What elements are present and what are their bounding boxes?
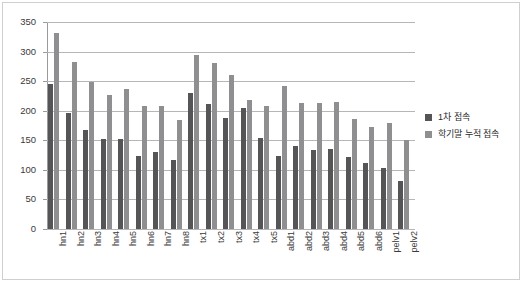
bar — [264, 106, 269, 229]
x-tick-label-hn4: hn4 — [112, 231, 121, 277]
bar — [54, 33, 59, 229]
bar-group — [82, 22, 100, 229]
bar-group — [152, 22, 170, 229]
bar — [241, 108, 246, 229]
x-tick-label-hn1: hn1 — [59, 231, 68, 277]
bar — [142, 106, 147, 229]
bar — [258, 138, 263, 229]
bar-group — [240, 22, 258, 229]
bar-group — [362, 22, 380, 229]
bar-group — [397, 22, 415, 229]
y-tick-label-250: 250 — [0, 76, 41, 86]
bar — [334, 102, 339, 229]
bar — [177, 120, 182, 229]
bar-group — [135, 22, 153, 229]
bar — [404, 140, 409, 229]
bar — [293, 146, 298, 229]
y-tick-mark-350 — [43, 22, 47, 23]
legend-swatch-series-1-icon — [425, 114, 432, 121]
bar — [153, 152, 158, 229]
bar — [352, 119, 357, 229]
bar — [72, 62, 77, 229]
legend-swatch-series-2-icon — [425, 131, 432, 138]
y-tick-mark-150 — [43, 140, 47, 141]
gridline-0 — [47, 229, 415, 230]
bar-group — [47, 22, 65, 229]
bar — [212, 63, 217, 229]
bar — [124, 89, 129, 229]
chart-container: 050100150200250300350 hn1hn2hn3hn4hn5hn6… — [0, 0, 523, 283]
bar — [89, 82, 94, 229]
x-tick-label-abd5: abd5 — [357, 231, 366, 277]
legend-item-series-2: 학기말 누적 접속 — [425, 129, 520, 140]
bar-group — [222, 22, 240, 229]
bar — [194, 55, 199, 229]
y-tick-mark-50 — [43, 199, 47, 200]
y-tick-label-200: 200 — [0, 106, 41, 116]
x-tick-label-tx1: tx1 — [199, 231, 208, 277]
x-tick-label-abd6: abd6 — [375, 231, 384, 277]
x-tick-label-pelv1: pelv1 — [392, 231, 401, 277]
bar — [171, 160, 176, 229]
bar — [311, 150, 316, 229]
x-tick-label-hn5: hn5 — [129, 231, 138, 277]
bar — [66, 113, 71, 230]
x-tick-label-abd4: abd4 — [340, 231, 349, 277]
bar-group — [292, 22, 310, 229]
bar-group — [187, 22, 205, 229]
bar-group — [327, 22, 345, 229]
x-tick-label-hn7: hn7 — [164, 231, 173, 277]
y-tick-mark-250 — [43, 81, 47, 82]
bar — [83, 130, 88, 229]
bar — [369, 127, 374, 229]
bar-group — [65, 22, 83, 229]
y-tick-mark-300 — [43, 52, 47, 53]
bar-group — [100, 22, 118, 229]
x-tick-label-tx5: tx5 — [270, 231, 279, 277]
bar — [48, 84, 53, 229]
y-tick-mark-100 — [43, 170, 47, 171]
y-tick-label-350: 350 — [0, 17, 41, 27]
bar — [387, 123, 392, 229]
bar-group — [275, 22, 293, 229]
y-tick-label-50: 50 — [0, 194, 41, 204]
x-tick-label-hn6: hn6 — [147, 231, 156, 277]
bar — [398, 181, 403, 229]
bar — [159, 106, 164, 229]
x-tick-label-hn8: hn8 — [182, 231, 191, 277]
bar-group — [170, 22, 188, 229]
bar-group — [257, 22, 275, 229]
x-tick-label-abd2: abd2 — [305, 231, 314, 277]
plot-area — [47, 22, 415, 229]
bar-group — [310, 22, 328, 229]
bar — [317, 103, 322, 229]
y-tick-mark-0 — [43, 229, 47, 230]
bar — [247, 100, 252, 229]
bar — [282, 86, 287, 229]
bar — [381, 168, 386, 229]
y-tick-mark-200 — [43, 111, 47, 112]
x-tick-label-abd1: abd1 — [287, 231, 296, 277]
bar — [206, 104, 211, 229]
y-tick-label-300: 300 — [0, 47, 41, 57]
bar-group — [380, 22, 398, 229]
x-tick-label-tx4: tx4 — [252, 231, 261, 277]
x-tick-label-tx3: tx3 — [235, 231, 244, 277]
x-tick-label-pelv2: pelv2 — [410, 231, 419, 277]
legend-label-series-1: 1차 접속 — [438, 112, 470, 123]
bar — [118, 139, 123, 229]
x-tick-label-hn3: hn3 — [94, 231, 103, 277]
legend-label-series-2: 학기말 누적 접속 — [438, 129, 499, 140]
bar — [229, 75, 234, 229]
bar — [328, 149, 333, 229]
bar — [363, 163, 368, 229]
bar — [223, 118, 228, 229]
chart-legend: 1차 접속 학기말 누적 접속 — [425, 112, 520, 146]
y-tick-label-150: 150 — [0, 135, 41, 145]
bar-group — [117, 22, 135, 229]
bar — [101, 139, 106, 229]
x-tick-label-tx2: tx2 — [217, 231, 226, 277]
y-tick-label-100: 100 — [0, 165, 41, 175]
x-tick-label-hn2: hn2 — [77, 231, 86, 277]
bar — [188, 93, 193, 229]
